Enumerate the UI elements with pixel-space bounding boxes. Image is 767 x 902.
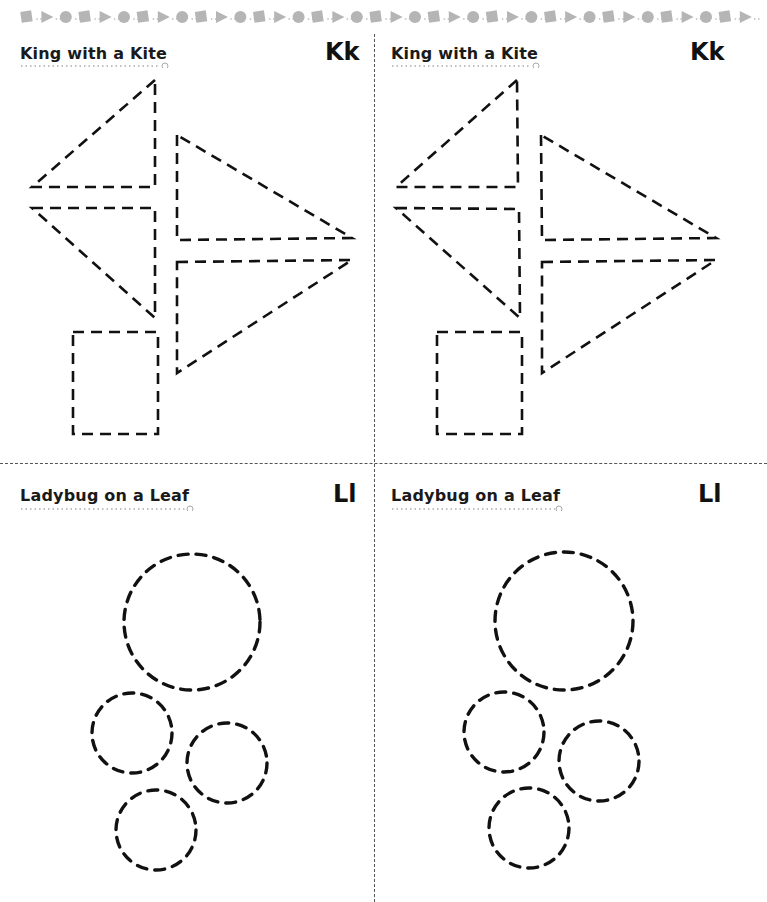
kite-shape-left <box>32 80 352 434</box>
tracing-art <box>0 0 767 902</box>
kite-shape-right <box>396 80 716 434</box>
ladybug-circles-right <box>464 552 639 868</box>
ladybug-circles-left <box>92 554 267 870</box>
